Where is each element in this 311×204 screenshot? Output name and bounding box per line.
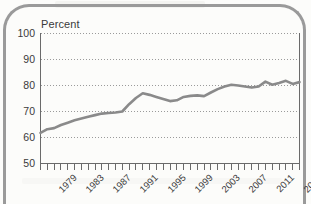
scanned-page-background: Percent 10090807060501979198319871991199… (0, 0, 311, 204)
data-series-line (41, 81, 300, 133)
y-axis-tick-label: 80 (11, 79, 35, 91)
y-axis-tick-label: 100 (11, 27, 35, 39)
y-axis-tick-label: 60 (11, 131, 35, 143)
y-axis-tick-label: 70 (11, 105, 35, 117)
y-axis-unit-label: Percent (41, 18, 80, 30)
y-axis-tick-label: 90 (11, 53, 35, 65)
y-axis-tick-label: 50 (11, 157, 35, 169)
line-chart (0, 0, 311, 204)
